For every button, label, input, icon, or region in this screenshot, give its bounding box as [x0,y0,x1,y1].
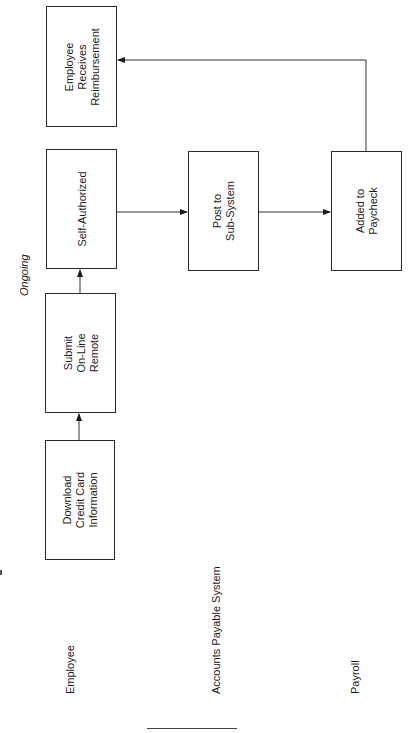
node-label: Download Credit Card Information [61,472,100,528]
lane-label-employee: Employee [64,645,76,694]
node-download-credit-card: Download Credit Card Information [45,440,115,560]
footer-rule [147,728,237,729]
arrow-paycheck-to-receive [118,60,366,151]
lane-label-accounts-payable: Accounts Payable System [210,566,222,694]
node-label: Employee Receives Reimbursement [62,28,101,106]
page-edge-mark [0,570,2,575]
node-self-authorized: Self-Authorized [46,149,117,269]
node-submit-online-remote: Submit On-Line Remote [45,293,116,413]
lane-label-payroll: Payroll [349,660,361,694]
node-label: Post to Sub-System [211,181,237,241]
node-added-to-paycheck: Added to Paycheck [331,151,402,271]
node-receive-reimbursement: Employee Receives Reimbursement [46,6,117,127]
node-label: Self-Authorized [75,171,88,246]
ongoing-note: Ongoing [18,254,30,296]
node-label: Added to Paycheck [354,187,380,235]
node-post-to-sub-system: Post to Sub-System [188,151,259,271]
node-label: Submit On-Line Remote [61,333,100,372]
